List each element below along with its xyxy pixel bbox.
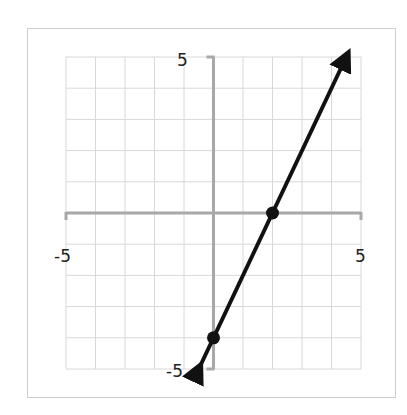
tick-labels: 5 -5 -5 5 xyxy=(54,50,366,381)
coordinate-plane: 5 -5 -5 5 xyxy=(0,0,407,415)
y-min-label: -5 xyxy=(166,361,183,381)
data-point xyxy=(207,331,220,344)
x-min-label: -5 xyxy=(54,246,71,266)
axes xyxy=(66,57,361,369)
x-max-label: 5 xyxy=(355,246,366,266)
data-point xyxy=(266,207,279,220)
y-max-label: 5 xyxy=(177,50,188,70)
